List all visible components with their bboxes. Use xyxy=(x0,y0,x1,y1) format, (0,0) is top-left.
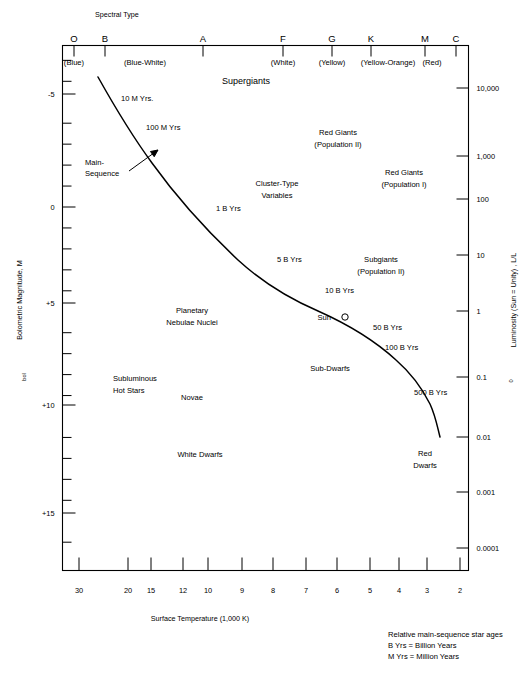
region-label-dwarfs: Dwarfs xyxy=(413,461,437,470)
age-label-1-b-yrs: 1 B Yrs xyxy=(216,204,241,213)
right-axis-title-subscript: 0 xyxy=(508,379,514,382)
luminosity-label-0.001: 0.001 xyxy=(477,488,496,497)
region-label-white-dwarfs: White Dwarfs xyxy=(177,450,222,459)
region-label-population-i: (Population I) xyxy=(381,180,427,189)
luminosity-axis-labels: 10,0001,0001001010.10.010.0010.0001 xyxy=(477,84,500,553)
region-label-sub-dwarfs: Sub-Dwarfs xyxy=(310,364,350,373)
magnitude-label-+5: +5 xyxy=(46,299,54,308)
age-label-10-m-yrs: 10 M Yrs. xyxy=(121,94,153,103)
region-label-cluster-type: Cluster-Type xyxy=(255,179,298,188)
spectral-color-labels: (Blue)(Blue-White)(White)(Yellow)(Yellow… xyxy=(64,58,442,67)
top-axis-title: Spectral Type xyxy=(95,10,139,19)
age-label-100-m-yrs: 100 M Yrs xyxy=(146,123,181,132)
footnotes: Relative main-sequence star agesB Yrs = … xyxy=(388,630,503,661)
left-axis-title: Bolometric Magnitude, M xyxy=(15,260,24,340)
region-label-nebulae-nuclei: Nebulae Nuclei xyxy=(166,318,218,327)
luminosity-label-1: 1 xyxy=(477,307,481,316)
age-label-5-b-yrs: 5 B Yrs xyxy=(277,255,302,264)
spectral-color-label-0: (Blue) xyxy=(64,58,85,67)
spectral-color-label-2: (White) xyxy=(271,58,296,67)
region-label-subgiants: Subgiants xyxy=(364,255,398,264)
magnitude-label-+15: +15 xyxy=(42,509,55,518)
spectral-label-F: F xyxy=(280,33,286,44)
magnitude-axis-ticks xyxy=(63,94,76,513)
region-label-subluminous: Subluminous xyxy=(113,374,157,383)
temperature-label-8: 8 xyxy=(271,586,275,595)
magnitude-label-0: 0 xyxy=(50,203,54,212)
temperature-label-10: 10 xyxy=(204,586,212,595)
luminosity-label-0.0001: 0.0001 xyxy=(477,544,500,553)
arrow-head xyxy=(150,150,158,157)
footnote-1: B Yrs = Billion Years xyxy=(388,641,457,650)
magnitude-axis-labels: -50+5+10+15 xyxy=(42,90,55,518)
footnote-2: M Yrs = Million Years xyxy=(388,652,459,661)
bottom-axis-title: Surface Temperature (1,000 K) xyxy=(151,614,250,623)
region-label-main: Main- xyxy=(85,158,104,167)
region-label-novae: Novae xyxy=(181,393,203,402)
spectral-label-O: O xyxy=(70,33,77,44)
region-label-sequence: Sequence xyxy=(85,169,119,178)
spectral-label-M: M xyxy=(421,33,429,44)
luminosity-label-100: 100 xyxy=(477,195,489,204)
magnitude-label-+10: +10 xyxy=(42,401,55,410)
sun-marker xyxy=(342,314,348,320)
age-label-100-b-yrs: 100 B Yrs xyxy=(385,343,418,352)
left-axis-title-group: Bolometric Magnitude, M bol xyxy=(15,260,27,380)
spectral-class-labels: OBAFGKMC xyxy=(70,33,459,44)
region-label-population-ii: (Population II) xyxy=(314,140,362,149)
spectral-color-label-1: (Blue-White) xyxy=(124,58,167,67)
plot-frame xyxy=(63,46,469,571)
footnote-0: Relative main-sequence star ages xyxy=(388,630,503,639)
magnitude-label--5: -5 xyxy=(48,90,55,99)
region-label-population-ii: (Population II) xyxy=(357,267,405,276)
temperature-label-2: 2 xyxy=(458,586,462,595)
luminosity-axis-ticks xyxy=(457,88,469,548)
magnitude-axis-minor-ticks xyxy=(63,60,72,542)
spectral-color-label-4: (Yellow-Orange) xyxy=(361,58,416,67)
left-axis-title-subscript: bol xyxy=(21,373,27,380)
luminosity-label-10,000: 10,000 xyxy=(477,84,500,93)
luminosity-label-10: 10 xyxy=(477,251,485,260)
temperature-label-6: 6 xyxy=(335,586,339,595)
temperature-axis-labels: 302015121098765432 xyxy=(75,586,462,595)
temperature-label-30: 30 xyxy=(75,586,83,595)
temperature-label-12: 12 xyxy=(179,586,187,595)
region-label-red-giants: Red Giants xyxy=(319,128,357,137)
region-label-variables: Variables xyxy=(261,191,292,200)
region-label-planetary: Planetary xyxy=(176,306,208,315)
temperature-label-3: 3 xyxy=(425,586,429,595)
spectral-color-label-5: (Red) xyxy=(423,58,442,67)
spectral-color-label-3: (Yellow) xyxy=(319,58,346,67)
spectral-label-G: G xyxy=(328,33,335,44)
luminosity-label-0.01: 0.01 xyxy=(477,433,491,442)
main-sequence-arrow xyxy=(129,150,158,171)
region-label-red-giants: Red Giants xyxy=(385,168,423,177)
region-label-supergiants: Supergiants xyxy=(222,76,271,86)
temperature-label-20: 20 xyxy=(124,586,132,595)
hr-diagram-figure: Spectral Type OBAFGKMC (Blue)(Blue-White… xyxy=(0,0,527,680)
hr-diagram-svg: Spectral Type OBAFGKMC (Blue)(Blue-White… xyxy=(0,0,527,680)
temperature-label-4: 4 xyxy=(397,586,401,595)
spectral-class-ticks xyxy=(74,46,456,57)
age-labels: 10 M Yrs.100 M Yrs1 B Yrs5 B Yrs10 B Yrs… xyxy=(121,94,447,397)
spectral-label-A: A xyxy=(200,33,207,44)
spectral-label-C: C xyxy=(453,33,460,44)
right-axis-title-group: Luminosity (Sun = Unity) , L/L 0 xyxy=(508,253,519,383)
spectral-label-B: B xyxy=(102,33,108,44)
temperature-label-5: 5 xyxy=(368,586,372,595)
right-axis-title: Luminosity (Sun = Unity) , L/L xyxy=(509,253,518,347)
age-label-10-b-yrs: 10 B Yrs xyxy=(325,286,354,295)
temperature-label-9: 9 xyxy=(240,586,244,595)
luminosity-label-0.1: 0.1 xyxy=(477,373,487,382)
age-label-50-b-yrs: 50 B Yrs xyxy=(373,323,402,332)
region-labels: SupergiantsMain-SequenceRed Giants(Popul… xyxy=(85,76,437,470)
age-label-500-b-yrs: 500 B Yrs xyxy=(414,388,447,397)
region-label-red: Red xyxy=(418,449,432,458)
region-label-sun: Sun xyxy=(317,313,331,322)
temperature-label-7: 7 xyxy=(304,586,308,595)
temperature-axis-ticks xyxy=(79,558,460,571)
luminosity-label-1,000: 1,000 xyxy=(477,152,496,161)
spectral-label-K: K xyxy=(368,33,375,44)
region-label-hot-stars: Hot Stars xyxy=(113,386,145,395)
temperature-label-15: 15 xyxy=(147,586,155,595)
